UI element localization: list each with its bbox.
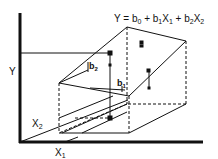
b1-label: b1 (117, 78, 127, 89)
axes (19, 13, 203, 143)
box-verticals (59, 27, 186, 133)
data-point-vertical (108, 51, 112, 120)
b2-label: b2 (89, 61, 99, 72)
x2-axis-label: X2 (32, 118, 43, 130)
y-axis-label: Y (9, 66, 16, 77)
regression-plane-diagram: Y = b0 + b1X1 + b2X2 Y X1 X2 b2 b1 (0, 0, 218, 159)
residual-points (140, 41, 150, 89)
x1-axis-label: X1 (55, 147, 66, 159)
regression-equation: Y = b0 + b1X1 + b2X2 (114, 13, 204, 25)
